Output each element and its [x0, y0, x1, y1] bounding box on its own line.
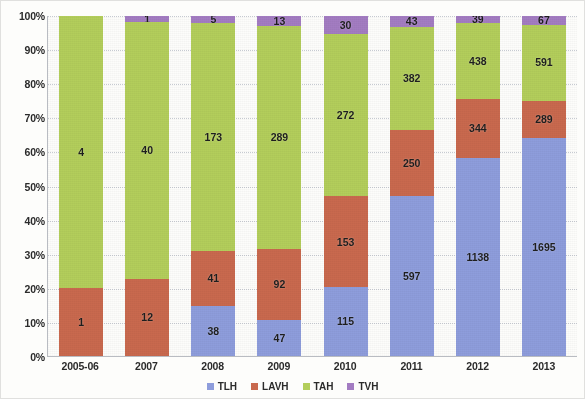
x-axis-tick-label: 2009 [246, 360, 312, 378]
bar-segment-tlh: 1695 [522, 138, 566, 356]
legend-item-tlh[interactable]: TLH [207, 381, 237, 392]
bar-segment-value: 43 [406, 16, 418, 27]
bar-column: 41 [48, 16, 114, 356]
bar-segment-value: 173 [205, 132, 223, 143]
bar-segment-tvh: 39 [456, 16, 500, 23]
bar-segment-value: 438 [469, 56, 487, 67]
bar-segment-value: 41 [207, 273, 219, 284]
bar-segment-value: 39 [472, 16, 484, 23]
bar-column: 14012 [114, 16, 180, 356]
bar-segment-tah: 4 [59, 16, 103, 288]
bar-segment-value: 13 [274, 16, 286, 26]
bar-segment-value: 289 [271, 132, 289, 143]
bar-segment-value: 30 [340, 20, 352, 31]
legend-swatch-icon [347, 383, 354, 390]
bar-segment-value: 1138 [466, 252, 489, 263]
bar-stack: 14012 [125, 16, 169, 356]
bar-column: 43382250597 [379, 16, 445, 356]
bar-segment-value: 597 [403, 271, 421, 282]
bar-column: 51734138 [180, 16, 246, 356]
legend-swatch-icon [303, 383, 310, 390]
bar-segment-value: 38 [207, 326, 219, 337]
y-axis-tick-label: 30% [0, 249, 45, 261]
bar-segment-tvh: 67 [522, 16, 566, 25]
bar-stack: 51734138 [191, 16, 235, 356]
legend-item-tah[interactable]: TAH [303, 381, 334, 392]
bar-stack: 30272153115 [324, 16, 368, 356]
bar-stack: 43382250597 [390, 16, 434, 356]
bar-segment-tvh: 13 [257, 16, 301, 26]
x-axis-tick-label: 2012 [445, 360, 511, 378]
bar-segment-tah: 382 [390, 27, 434, 129]
bar-segment-value: 40 [141, 145, 153, 156]
bar-segment-value: 115 [337, 316, 354, 327]
bar-segment-lavh: 344 [456, 99, 500, 159]
bar-segment-tah: 438 [456, 23, 500, 99]
legend-swatch-icon [251, 383, 258, 390]
bar-segment-tlh: 115 [324, 287, 368, 356]
bar-segment-lavh: 250 [390, 130, 434, 197]
bar-segment-lavh: 92 [257, 249, 301, 320]
bar-segment-value: 382 [403, 73, 421, 84]
bar-segment-tlh: 47 [257, 320, 301, 356]
y-axis-tick-label: 70% [0, 112, 45, 124]
legend: TLHLAVHTAHTVH [0, 381, 585, 392]
bar-stack: 394383441138 [456, 16, 500, 356]
legend-label: LAVH [262, 381, 288, 392]
y-axis-tick-label: 10% [0, 317, 45, 329]
bar-segment-value: 1695 [532, 242, 555, 253]
bar-segment-lavh: 289 [522, 101, 566, 138]
y-axis-tick-label: 80% [0, 78, 45, 90]
bar-stack: 675912891695 [522, 16, 566, 356]
bar-stack: 41 [59, 16, 103, 356]
y-axis-tick-label: 100% [0, 10, 45, 22]
bar-segment-value: 289 [535, 114, 553, 125]
bar-column: 30272153115 [313, 16, 379, 356]
bar-segment-tah: 591 [522, 25, 566, 101]
bar-segment-value: 92 [274, 279, 286, 290]
bar-segment-value: 1 [78, 317, 84, 328]
x-axis: 2005-062007200820092010201120122013 [47, 360, 577, 378]
y-axis-tick-label: 0% [0, 351, 45, 363]
y-axis-tick-label: 40% [0, 215, 45, 227]
bar-segment-value: 272 [337, 110, 355, 121]
x-axis-tick-label: 2013 [511, 360, 577, 378]
legend-item-lavh[interactable]: LAVH [251, 381, 288, 392]
stacked-bar-chart: 100%90%80%70%60%50%40%30%20%10%0% 411401… [0, 0, 585, 399]
bar-segment-value: 344 [469, 123, 487, 134]
bar-stack: 132899247 [257, 16, 301, 356]
x-axis-tick-label: 2007 [113, 360, 179, 378]
bar-segment-tlh: 1138 [456, 158, 500, 356]
y-axis-tick-label: 20% [0, 283, 45, 295]
x-axis-tick-label: 2005-06 [47, 360, 113, 378]
bar-segment-value: 153 [337, 237, 355, 248]
bar-column: 675912891695 [511, 16, 577, 356]
bar-segment-lavh: 1 [59, 288, 103, 356]
bar-segment-tah: 40 [125, 22, 169, 279]
bar-segment-tvh: 43 [390, 16, 434, 27]
x-axis-tick-label: 2008 [180, 360, 246, 378]
bar-column: 132899247 [246, 16, 312, 356]
bar-segment-tlh: 597 [390, 196, 434, 356]
bar-group: 4114012517341381328992473027215311543382… [48, 16, 577, 356]
bar-segment-lavh: 153 [324, 196, 368, 287]
bar-segment-tah: 173 [191, 23, 235, 252]
legend-item-tvh[interactable]: TVH [347, 381, 378, 392]
x-axis-tick-label: 2010 [312, 360, 378, 378]
bar-segment-value: 47 [274, 333, 286, 344]
bar-segment-tvh: 5 [191, 16, 235, 23]
bar-segment-value: 67 [538, 16, 550, 25]
bar-segment-lavh: 41 [191, 251, 235, 305]
y-axis-tick-label: 90% [0, 44, 45, 56]
bar-segment-value: 591 [535, 57, 553, 68]
bar-segment-value: 12 [141, 312, 153, 323]
plot-area: 4114012517341381328992473027215311543382… [47, 16, 577, 357]
bar-segment-value: 250 [403, 158, 421, 169]
y-axis-tick-label: 50% [0, 181, 45, 193]
legend-label: TAH [314, 381, 334, 392]
bar-segment-tlh: 38 [191, 306, 235, 356]
legend-label: TLH [218, 381, 237, 392]
bar-segment-tah: 289 [257, 26, 301, 249]
bar-segment-value: 4 [78, 147, 84, 158]
legend-label: TVH [358, 381, 378, 392]
